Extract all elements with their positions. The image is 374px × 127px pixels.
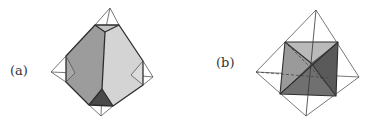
diagram-canvas: [0, 0, 374, 127]
panel-a-figure: [51, 8, 153, 116]
panel-a-right-face: [102, 25, 143, 106]
panel-b-figure: [256, 10, 359, 116]
